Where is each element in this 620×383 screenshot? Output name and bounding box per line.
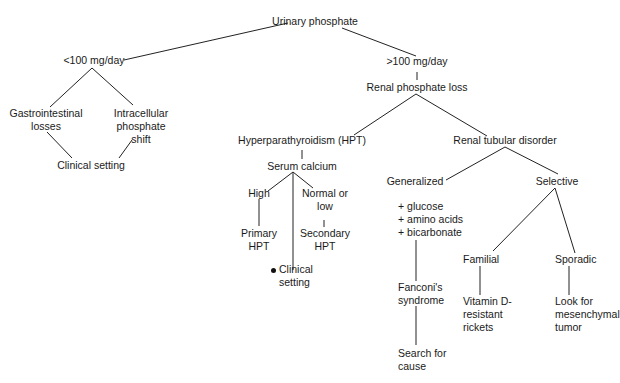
node-label: phosphate bbox=[114, 120, 168, 133]
bullet-icon bbox=[271, 268, 276, 273]
node-label: Sporadic bbox=[555, 253, 596, 266]
node-greater-than-100: >100 mg/day bbox=[386, 55, 447, 68]
node-renal-tubular-disorder: Renal tubular disorder bbox=[453, 134, 556, 147]
node-label: Search for bbox=[398, 347, 446, 360]
node-label: tumor bbox=[555, 321, 620, 334]
node-label: Fanconi's bbox=[398, 281, 444, 294]
node-markers: + glucose + amino acids + bicarbonate bbox=[398, 200, 463, 239]
node-label: Look for bbox=[555, 295, 620, 308]
node-label: Serum calcium bbox=[267, 160, 336, 173]
node-label: rickets bbox=[463, 321, 512, 334]
node-label: High bbox=[248, 187, 270, 200]
node-label: Clinical bbox=[279, 263, 313, 275]
node-label: mesenchymal bbox=[555, 308, 620, 321]
node-clinical-setting-hpt: Clinical setting bbox=[271, 263, 313, 289]
node-clinical-setting-gi: Clinical setting bbox=[57, 159, 125, 172]
node-label: Familial bbox=[463, 253, 499, 266]
node-label: HPT bbox=[300, 240, 350, 253]
node-mesenchymal-tumor: Look for mesenchymal tumor bbox=[555, 295, 620, 334]
node-generalized: Generalized bbox=[387, 175, 444, 188]
node-label: cause bbox=[398, 360, 446, 373]
node-label: resistant bbox=[463, 308, 512, 321]
node-label: Primary bbox=[241, 227, 277, 240]
node-gastrointestinal-losses: Gastrointestinal losses bbox=[10, 107, 83, 133]
node-label: Generalized bbox=[387, 175, 444, 188]
node-urinary-phosphate: Urinary phosphate bbox=[272, 15, 358, 28]
node-search-for-cause: Search for cause bbox=[398, 347, 446, 373]
node-sporadic: Sporadic bbox=[555, 253, 596, 266]
node-label: Renal phosphate loss bbox=[367, 81, 468, 94]
node-intracellular-shift: Intracellular phosphate shift bbox=[114, 107, 168, 146]
node-label: Hyperparathyroidism (HPT) bbox=[238, 134, 366, 147]
node-label: Intracellular bbox=[114, 107, 168, 120]
node-label: Renal tubular disorder bbox=[453, 134, 556, 147]
node-fanconi-syndrome: Fanconi's syndrome bbox=[398, 281, 444, 307]
node-label: Secondary bbox=[300, 227, 350, 240]
marker-bicarbonate: + bicarbonate bbox=[398, 226, 463, 239]
node-renal-phosphate-loss: Renal phosphate loss bbox=[367, 81, 468, 94]
node-label: losses bbox=[10, 120, 83, 133]
node-label: Vitamin D- bbox=[463, 295, 512, 308]
node-label: Urinary phosphate bbox=[272, 15, 358, 28]
node-serum-calcium: Serum calcium bbox=[267, 160, 336, 173]
node-secondary-hpt: Secondary HPT bbox=[300, 227, 350, 253]
node-hyperparathyroidism: Hyperparathyroidism (HPT) bbox=[238, 134, 366, 147]
node-label: setting bbox=[271, 276, 313, 289]
node-label: Selective bbox=[536, 175, 579, 188]
node-normal-or-low: Normal or low bbox=[302, 187, 348, 213]
node-familial: Familial bbox=[463, 253, 499, 266]
node-label: syndrome bbox=[398, 294, 444, 307]
node-label: shift bbox=[114, 133, 168, 146]
marker-glucose: + glucose bbox=[398, 200, 463, 213]
node-vitamin-d-rickets: Vitamin D- resistant rickets bbox=[463, 295, 512, 334]
node-high-calcium: High bbox=[248, 187, 270, 200]
node-label: >100 mg/day bbox=[386, 55, 447, 68]
node-label: Gastrointestinal bbox=[10, 107, 83, 120]
node-primary-hpt: Primary HPT bbox=[241, 227, 277, 253]
node-label: <100 mg/day bbox=[63, 54, 124, 67]
node-less-than-100: <100 mg/day bbox=[63, 54, 124, 67]
node-label: Clinical setting bbox=[57, 159, 125, 172]
node-label: Normal or bbox=[302, 187, 348, 200]
node-selective: Selective bbox=[536, 175, 579, 188]
node-label: HPT bbox=[241, 240, 277, 253]
marker-amino-acids: + amino acids bbox=[398, 213, 463, 226]
node-label: low bbox=[302, 200, 348, 213]
